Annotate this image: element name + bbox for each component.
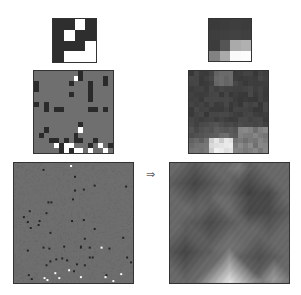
transform-arrow-icon: ⇒ — [146, 169, 155, 180]
medium-input-grid — [33, 70, 114, 154]
small-output-grid — [208, 18, 252, 62]
large-input-field — [13, 162, 134, 284]
large-output-field — [169, 162, 290, 284]
small-input-grid — [52, 18, 97, 63]
medium-output-field — [188, 70, 269, 154]
